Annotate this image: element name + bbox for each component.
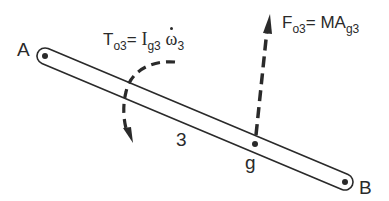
pin-a-icon bbox=[42, 53, 48, 59]
inertia-torque-arrow-icon bbox=[123, 62, 175, 143]
angular-acceleration-subscript: 3 bbox=[177, 39, 184, 53]
end-a-label: A bbox=[17, 40, 30, 59]
link-number-label: 3 bbox=[176, 130, 187, 149]
mass-acceleration: MA bbox=[320, 13, 346, 32]
force-equals: = bbox=[306, 13, 316, 32]
force-subscript: o3 bbox=[292, 22, 305, 36]
inertia-force-arrow-icon bbox=[256, 14, 272, 135]
inertia-subscript: g3 bbox=[147, 39, 160, 53]
mass-acceleration-subscript: g3 bbox=[346, 22, 359, 36]
torque-subscript: o3 bbox=[113, 39, 126, 53]
inertia-torque-equation: To3= Ig3 ω3 bbox=[103, 30, 184, 48]
inertia-force-equation: Fo3= MAg3 bbox=[282, 14, 359, 31]
angular-acceleration-symbol: ω bbox=[166, 30, 178, 48]
torque-equals: = bbox=[127, 30, 137, 49]
torque-symbol: T bbox=[103, 30, 113, 49]
force-symbol: F bbox=[282, 13, 292, 32]
end-b-label: B bbox=[359, 178, 372, 197]
center-of-gravity-dot-icon bbox=[252, 141, 258, 147]
center-of-gravity-label: g bbox=[245, 153, 256, 172]
pin-b-icon bbox=[342, 179, 348, 185]
link-3-bar bbox=[37, 48, 353, 190]
